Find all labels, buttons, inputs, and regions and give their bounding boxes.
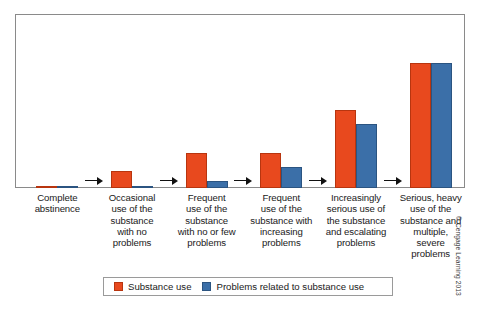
category-label-line: the substance — [315, 215, 398, 226]
progression-arrow-icon — [384, 176, 403, 185]
category-label-line: Increasingly — [315, 192, 398, 203]
category-label-line: Frequent — [240, 192, 323, 203]
category-label-line: problems — [91, 237, 174, 248]
category-label: Completeabstinence — [16, 192, 99, 215]
category-label-line: Frequent — [165, 192, 248, 203]
progression-arrow-icon — [309, 176, 328, 185]
category-label-line: problems — [240, 237, 323, 248]
category-label-line: use of the — [165, 203, 248, 214]
category-label-line: serious use of — [315, 203, 398, 214]
category-label-line: Occasional — [91, 192, 174, 203]
bar-substance-use — [111, 171, 132, 188]
legend-label-problems: Problems related to substance use — [216, 281, 364, 292]
legend-swatch-substance-use — [114, 282, 123, 291]
category-label-line: and escalating — [315, 226, 398, 237]
bar-substance-use — [260, 153, 281, 188]
category-label-line: substance — [165, 215, 248, 226]
copyright-notice: © Cengage Learning 2013 — [455, 216, 462, 296]
category-label: Frequentuse of thesubstance withincreasi… — [240, 192, 323, 248]
category-label-line: with no — [91, 226, 174, 237]
category-label-line: with no or few — [165, 226, 248, 237]
legend-swatch-problems — [202, 282, 211, 291]
category-label: Frequentuse of thesubstancewith no or fe… — [165, 192, 248, 248]
category-label-line: use of the — [389, 203, 472, 214]
progression-arrow-icon — [85, 176, 104, 185]
category-label-line: increasing — [240, 226, 323, 237]
legend-label-substance-use: Substance use — [128, 281, 191, 292]
category-label: Increasinglyserious use ofthe substancea… — [315, 192, 398, 248]
bar-group — [111, 15, 153, 188]
bar-substance-use — [36, 186, 57, 188]
legend-entry-problems: Problems related to substance use — [202, 281, 364, 292]
bar-problems-related — [356, 124, 377, 188]
bar-substance-use — [410, 63, 431, 188]
category-label-line: substance with — [240, 215, 323, 226]
category-label: Occasionaluse of thesubstancewith noprob… — [91, 192, 174, 248]
category-label-line: abstinence — [16, 203, 99, 214]
bar-substance-use — [186, 153, 207, 188]
bar-problems-related — [431, 63, 452, 188]
bar-problems-related — [207, 181, 228, 188]
bar-problems-related — [281, 167, 302, 188]
category-label-line: problems — [165, 237, 248, 248]
bar-group — [410, 15, 452, 188]
legend-entry-substance-use: Substance use — [114, 281, 191, 292]
bar-substance-use — [335, 110, 356, 188]
category-label-line: substance — [91, 215, 174, 226]
category-axis-labels: CompleteabstinenceOccasionaluse of thesu… — [15, 192, 465, 272]
chart-figure: CompleteabstinenceOccasionaluse of thesu… — [0, 0, 499, 310]
progression-arrow-icon — [160, 176, 179, 185]
bar-group — [260, 15, 302, 188]
bar-group — [186, 15, 228, 188]
bar-group — [36, 15, 78, 188]
category-label-line: use of the — [240, 203, 323, 214]
bar-group — [335, 15, 377, 188]
bar-problems-related — [57, 186, 78, 188]
progression-arrow-icon — [234, 176, 253, 185]
chart-legend: Substance use Problems related to substa… — [103, 277, 393, 296]
category-label-line: use of the — [91, 203, 174, 214]
bar-problems-related — [132, 186, 153, 188]
category-label-line: problems — [315, 237, 398, 248]
category-label-line: Serious, heavy — [389, 192, 472, 203]
bars-area — [16, 15, 464, 188]
category-label-line: Complete — [16, 192, 99, 203]
